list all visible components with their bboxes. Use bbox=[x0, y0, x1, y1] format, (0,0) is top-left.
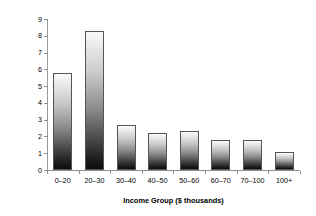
y-tick-label-1: 1 bbox=[30, 150, 42, 157]
y-tick-label-0: 0 bbox=[30, 167, 42, 174]
x-tick-8 bbox=[300, 171, 301, 174]
y-tick-label-7: 7 bbox=[30, 49, 42, 56]
y-axis-line bbox=[47, 19, 48, 171]
y-tick-1 bbox=[44, 153, 48, 154]
x-tick-1 bbox=[79, 171, 80, 174]
bar-6 bbox=[243, 140, 262, 170]
x-tick-0 bbox=[47, 171, 48, 174]
y-tick-4 bbox=[44, 103, 48, 104]
x-tick-6 bbox=[237, 171, 238, 174]
bar-5 bbox=[211, 140, 230, 170]
y-tick-label-5: 5 bbox=[30, 83, 42, 90]
y-tick-6 bbox=[44, 69, 48, 70]
x-axis-title: Income Group ($ thousands) bbox=[47, 196, 300, 205]
bar-0 bbox=[53, 73, 72, 170]
y-tick-5 bbox=[44, 86, 48, 87]
bar-chart-figure: Percent Tax Reduction 0 1 2 3 4 5 6 7 8 … bbox=[0, 0, 316, 216]
y-tick-label-8: 8 bbox=[30, 32, 42, 39]
y-tick-label-4: 4 bbox=[30, 99, 42, 106]
y-tick-label-2: 2 bbox=[30, 133, 42, 140]
bar-7 bbox=[275, 152, 294, 170]
bar-2 bbox=[117, 125, 136, 170]
x-tick-3 bbox=[142, 171, 143, 174]
x-tick-4 bbox=[173, 171, 174, 174]
bar-4 bbox=[180, 131, 199, 170]
y-tick-9 bbox=[44, 19, 48, 20]
y-tick-label-3: 3 bbox=[30, 116, 42, 123]
x-tick-7 bbox=[268, 171, 269, 174]
y-tick-2 bbox=[44, 136, 48, 137]
y-tick-3 bbox=[44, 120, 48, 121]
x-tick-5 bbox=[205, 171, 206, 174]
x-tick-2 bbox=[110, 171, 111, 174]
bar-3 bbox=[148, 133, 167, 170]
bar-1 bbox=[85, 31, 104, 170]
y-tick-7 bbox=[44, 53, 48, 54]
y-tick-8 bbox=[44, 36, 48, 37]
y-tick-label-9: 9 bbox=[30, 16, 42, 23]
y-tick-label-6: 6 bbox=[30, 66, 42, 73]
x-label-7: 100+ bbox=[261, 177, 307, 185]
